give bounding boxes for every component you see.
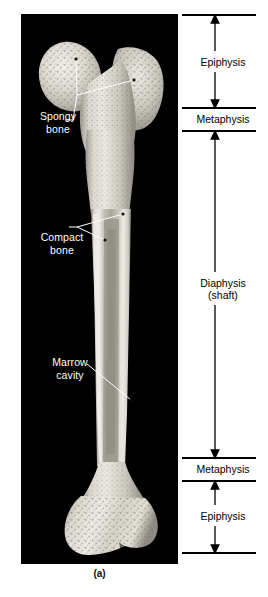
figure-caption: (a) bbox=[21, 568, 178, 579]
bone-photograph-panel: Spongy bone Compact bone Marrow cavity bbox=[21, 14, 178, 564]
label-metaphysis-proximal: Metaphysis bbox=[178, 113, 268, 125]
label-epiphysis-distal: Epiphysis bbox=[178, 510, 268, 522]
figure-container: Spongy bone Compact bone Marrow cavity bbox=[0, 0, 268, 597]
spongy-bone-label: Spongy bone bbox=[27, 110, 89, 135]
compact-bone-label: Compact bone bbox=[31, 231, 93, 256]
femur-longitudinal-section-image bbox=[21, 14, 178, 564]
label-diaphysis: Diaphysis (shaft) bbox=[178, 277, 268, 301]
marrow-cavity-label: Marrow cavity bbox=[37, 356, 103, 381]
label-epiphysis-proximal: Epiphysis bbox=[178, 56, 268, 68]
label-metaphysis-distal: Metaphysis bbox=[178, 463, 268, 475]
region-bracket-diagram: Epiphysis Metaphysis Diaphysis (shaft) M… bbox=[178, 0, 268, 597]
